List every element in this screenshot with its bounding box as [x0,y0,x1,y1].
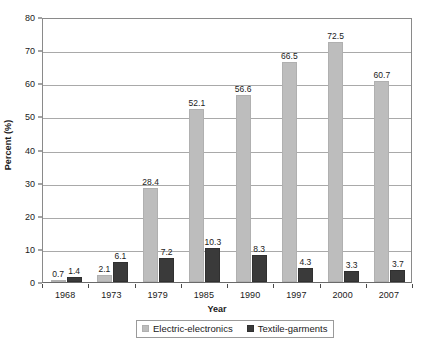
x-tick-mark [42,284,43,288]
bar-value-label: 8.3 [253,244,265,254]
bar-value-label: 28.4 [142,177,159,187]
x-tick-mark [273,284,274,288]
bar-electric-electronics-2007 [374,81,389,282]
x-tick-label: 1990 [240,290,260,300]
bar-textile-garments-2000 [344,271,359,282]
bar-textile-garments-2007 [390,270,405,282]
bar-value-label: 72.5 [327,31,344,41]
bar-textile-garments-1968 [67,277,82,282]
bar-value-label: 52.1 [189,98,206,108]
bar-value-label: 6.1 [114,251,126,261]
x-tick-mark [320,284,321,288]
x-tick-mark [366,284,367,288]
bar-textile-garments-1973 [113,262,128,282]
y-tick-label: 80 [7,13,35,23]
bar-textile-garments-1979 [159,258,174,282]
bar-value-label: 10.3 [205,237,222,247]
y-tick-label: 20 [7,212,35,222]
bar-value-label: 4.3 [299,257,311,267]
legend-swatch-icon [142,325,149,332]
legend-label: Electric-electronics [153,323,233,334]
x-tick-mark [88,284,89,288]
x-axis-title-text: Year [207,304,226,314]
x-tick-label: 1985 [194,290,214,300]
bar-textile-garments-1985 [205,248,220,282]
bar-electric-electronics-1997 [282,62,297,282]
plot-area: 0.71.42.16.128.47.252.110.356.68.366.54.… [42,18,412,283]
x-tick-mark [181,284,182,288]
bar-value-label: 2.1 [98,264,110,274]
y-tick-label: 40 [7,146,35,156]
x-tick-label: 1973 [101,290,121,300]
x-tick-mark [227,284,228,288]
bar-chart: Percent (%) 01020304050607080 0.71.42.16… [0,0,434,348]
gridline [43,118,411,119]
bar-electric-electronics-2000 [328,42,343,282]
y-tick-label: 70 [7,46,35,56]
bar-value-label: 66.5 [281,51,298,61]
bar-electric-electronics-1985 [189,109,204,282]
gridline [43,218,411,219]
bar-value-label: 3.3 [346,260,358,270]
bar-value-label: 56.6 [235,84,252,94]
y-tick-label: 30 [7,179,35,189]
x-tick-label: 2007 [379,290,399,300]
x-axis-title: Year [0,304,434,314]
gridline [43,85,411,86]
x-tick-mark [135,284,136,288]
x-tick-label: 2000 [333,290,353,300]
legend-entry: Electric-electronics [142,323,233,334]
bar-electric-electronics-1968 [51,280,66,282]
x-tick-label: 1979 [148,290,168,300]
gridline [43,251,411,252]
bar-electric-electronics-1973 [97,275,112,282]
y-tick-label: 50 [7,112,35,122]
gridline [43,152,411,153]
gridline [43,52,411,53]
bar-value-label: 60.7 [374,70,391,80]
bar-electric-electronics-1990 [236,95,251,282]
legend-label: Textile-garments [258,323,328,334]
bar-value-label: 7.2 [161,247,173,257]
y-tick-label: 10 [7,245,35,255]
gridline [43,185,411,186]
bar-electric-electronics-1979 [143,188,158,282]
bar-value-label: 1.4 [68,266,80,276]
x-tick-mark [412,284,413,288]
legend: Electric-electronicsTextile-garments [136,320,334,338]
bar-textile-garments-1997 [298,268,313,282]
bar-textile-garments-1990 [252,255,267,282]
y-tick-label: 0 [7,278,35,288]
legend-entry: Textile-garments [247,323,328,334]
x-tick-label: 1997 [286,290,306,300]
legend-swatch-icon [247,325,254,332]
y-tick-label: 60 [7,79,35,89]
x-tick-label: 1968 [55,290,75,300]
bar-value-label: 3.7 [392,259,404,269]
bar-value-label: 0.7 [52,269,64,279]
